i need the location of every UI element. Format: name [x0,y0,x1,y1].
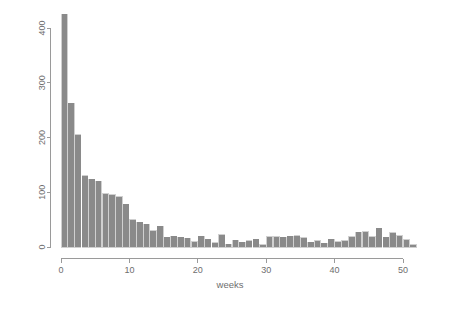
histogram-bar [157,226,163,247]
histogram-bar [280,237,286,247]
y-axis-tick-label: 400 [37,20,47,35]
x-axis-tick-label: 40 [330,265,340,275]
histogram-bar [123,204,129,247]
x-axis-tick-label: 20 [193,265,203,275]
histogram-bar [335,242,341,247]
histogram-bar [68,103,74,247]
histogram-bar [212,243,218,247]
y-axis-tick-label: 100 [37,185,47,200]
histogram-bar [198,236,204,247]
histogram-bar [376,228,382,247]
histogram-bar [342,241,348,247]
histogram-bar [410,245,416,247]
histogram-bar [267,237,273,247]
histogram-bar [185,238,191,247]
histogram-bar [369,237,375,247]
y-axis-tick-label: 200 [37,130,47,145]
histogram-bar [178,237,184,247]
histogram-bar [253,239,259,247]
histogram-bar [150,231,156,247]
x-axis-tick-label: 10 [124,265,134,275]
x-axis-tick-label: 0 [58,265,63,275]
histogram-bar [233,240,239,247]
x-axis: 01020304050 [58,259,408,275]
histogram-bar [287,236,293,247]
histogram-bar [260,245,266,247]
histogram-bar [321,243,327,247]
histogram-bar [205,239,211,247]
histogram-bar [383,237,389,247]
histogram-bar [89,179,95,247]
histogram-bar [144,224,150,247]
histogram-bar [404,240,410,247]
histogram-bar [397,236,403,248]
histogram-bar [328,239,334,247]
histogram-bar [390,233,396,247]
histogram-bar [103,194,109,247]
histogram-bar [301,238,307,247]
y-axis-tick-label: 300 [37,75,47,90]
histogram-bar [109,195,115,247]
histogram-bar [116,197,122,247]
histogram-bar [82,176,88,247]
histogram-bar [171,236,177,247]
histogram-bar [226,244,232,247]
histogram-bar [130,220,136,247]
y-axis: 0100200300400 [37,20,51,249]
histogram-bar [239,242,245,247]
x-axis-tick-label: 30 [261,265,271,275]
histogram-bar [274,237,280,247]
bar-series [62,14,417,247]
histogram-bar [75,135,81,247]
chart-figure: 0100200300400 01020304050 weeks [0,0,450,311]
histogram-plot: 0100200300400 01020304050 weeks [0,0,450,311]
y-axis-tick-label: 0 [37,244,47,249]
histogram-bar [192,242,198,247]
histogram-bar [294,236,300,248]
x-axis-tick-label: 50 [398,265,408,275]
histogram-bar [356,232,362,247]
histogram-bar [363,232,369,247]
histogram-bar [349,237,355,247]
histogram-bar [219,235,225,247]
x-axis-title: weeks [216,279,244,290]
histogram-bar [308,242,314,247]
histogram-bar [315,241,321,247]
histogram-bar [96,181,102,247]
histogram-bar [164,237,170,247]
histogram-bar [137,222,143,247]
histogram-bar [62,14,68,247]
histogram-bar [246,241,252,247]
